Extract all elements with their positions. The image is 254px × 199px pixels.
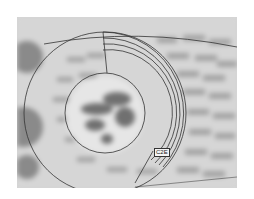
inner-circle [65, 73, 145, 153]
arc-4 [103, 50, 172, 160]
arc-1 [103, 32, 184, 167]
diagram-frame [17, 17, 237, 188]
leader-line [135, 151, 153, 183]
arc-overlay [17, 17, 237, 188]
annotation-label: C2E [154, 148, 170, 157]
